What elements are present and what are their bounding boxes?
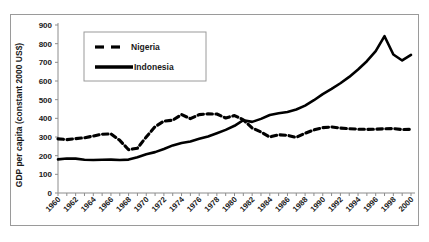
y-tick-label: 100 — [39, 170, 53, 179]
y-tick-label: 700 — [39, 58, 53, 67]
x-tick-label: 1990 — [309, 195, 328, 214]
x-axis: 1960196219641966196819701972197419761978… — [44, 193, 416, 214]
chart-legend: Nigeria Indonesia — [84, 32, 206, 81]
x-tick-label: 1984 — [256, 195, 275, 214]
y-tick-label: 800 — [39, 40, 53, 49]
y-tick-label: 300 — [39, 133, 53, 142]
y-tick-label: 600 — [39, 77, 53, 86]
x-tick-label: 1992 — [326, 195, 345, 214]
x-tick-label: 1986 — [273, 195, 292, 214]
x-tick-label: 1994 — [344, 195, 363, 214]
y-tick-label: 900 — [39, 21, 53, 30]
legend-label-nigeria: Nigeria — [131, 42, 160, 52]
y-tick-label: 500 — [39, 96, 53, 105]
chart-container: 0100200300400500600700800900 19601962196… — [10, 14, 419, 226]
y-axis: 0100200300400500600700800900 — [39, 21, 58, 198]
x-tick-label: 1974 — [167, 195, 186, 214]
y-axis-title-text: GDP per capita (constant 2000 US$) — [14, 43, 24, 188]
y-tick-label: 400 — [39, 114, 53, 123]
x-tick-label: 1970 — [132, 195, 151, 214]
x-tick-label: 2000 — [397, 195, 416, 214]
x-tick-label: 1964 — [79, 195, 98, 214]
y-tick-label: 200 — [39, 152, 53, 161]
gdp-per-capita-line-chart: 0100200300400500600700800900 19601962196… — [11, 15, 418, 225]
x-tick-label: 1980 — [220, 195, 239, 214]
x-tick-label: 1996 — [361, 195, 380, 214]
x-tick-label: 1978 — [203, 195, 222, 214]
page-scan-artifact: — · ° - — [0, 0, 429, 10]
y-axis-title: GDP per capita (constant 2000 US$) — [14, 43, 24, 188]
x-tick-label: 1962 — [61, 195, 80, 214]
x-tick-label: 1966 — [97, 195, 116, 214]
x-tick-label: 1968 — [114, 195, 133, 214]
legend-box — [84, 32, 206, 81]
legend-label-indonesia: Indonesia — [134, 62, 174, 72]
x-tick-label: 1976 — [185, 195, 204, 214]
x-tick-label: 1982 — [238, 195, 257, 214]
series-line-nigeria — [58, 114, 411, 150]
x-tick-label: 1998 — [379, 195, 398, 214]
y-tick-label: 0 — [48, 189, 53, 198]
x-tick-label: 1988 — [291, 195, 310, 214]
x-tick-label: 1972 — [150, 195, 169, 214]
